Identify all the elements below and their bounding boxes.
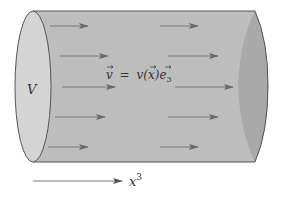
volume-label: V (27, 82, 38, 97)
svg-text:v = v(x)e3: v = v(x)e3 (106, 68, 172, 84)
flow-cylinder-diagram: V v = v(x)e3 x3 (0, 0, 287, 199)
cylinder-body (33, 11, 268, 162)
equals-sign: = (120, 68, 130, 82)
x3-axis-label: x3 (129, 172, 142, 189)
velocity-function: v( (137, 68, 149, 82)
velocity-equation: v = v(x)e3 (106, 66, 172, 85)
basis-vector: e (159, 68, 166, 82)
basis-subscript: 3 (167, 75, 172, 84)
velocity-symbol: v (106, 68, 113, 82)
